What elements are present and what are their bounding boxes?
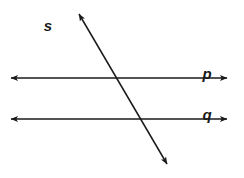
label-line-q: q: [202, 106, 211, 123]
label-line-s: s: [44, 17, 52, 34]
diagram-background: [0, 0, 244, 178]
geometry-diagram-canvas: s p q: [0, 0, 244, 178]
geometry-figure: s p q: [0, 0, 244, 178]
label-line-p: p: [201, 65, 211, 82]
